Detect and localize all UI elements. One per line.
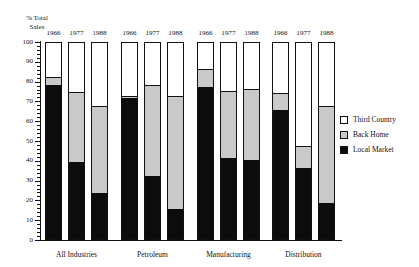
legend-swatch-icon <box>340 146 348 154</box>
y-tick-label: 0 <box>7 237 33 244</box>
bar-group: 196619771988Manufacturing <box>197 42 260 240</box>
x-axis-group-label: Manufacturing <box>197 250 260 259</box>
bar-segment-third-country <box>168 42 183 96</box>
bar-segment-back-home <box>273 93 288 111</box>
bar-segment-local-market <box>46 85 61 239</box>
bar-segment-local-market <box>198 87 213 239</box>
bar-segment-third-country <box>244 42 259 89</box>
y-tick-label: 10 <box>7 217 33 224</box>
bar-segment-local-market <box>69 162 84 239</box>
y-axis-title-line-1: % Total <box>14 14 60 23</box>
bar-segment-back-home <box>244 89 259 160</box>
bar-segment-third-country <box>145 42 160 85</box>
stacked-bar <box>243 42 260 240</box>
bar-segment-local-market <box>122 98 137 239</box>
x-axis-line <box>40 240 342 241</box>
bar-year-label: 1966 <box>118 29 142 37</box>
legend-swatch-icon <box>340 131 348 139</box>
stacked-bar-chart: % Total Sales 0102030405060708090100 196… <box>0 0 419 267</box>
bar-segment-back-home <box>296 146 311 168</box>
x-axis-group-label: Petroleum <box>121 250 184 259</box>
bar-segment-back-home <box>92 106 107 193</box>
legend-item: Third Country <box>340 112 416 127</box>
bar-segment-back-home <box>198 69 213 87</box>
y-tick-label: 90 <box>7 58 33 65</box>
bar-segment-back-home <box>145 85 160 176</box>
bar-segment-local-market <box>221 158 236 239</box>
bar-segment-third-country <box>319 42 334 106</box>
bar-group: 196619771988Petroleum <box>121 42 184 240</box>
bar-year-label: 1977 <box>65 29 89 37</box>
y-tick-label: 50 <box>7 138 33 145</box>
bar-segment-local-market <box>168 209 183 239</box>
bar-year-label: 1977 <box>217 29 241 37</box>
y-tick-major <box>35 240 41 241</box>
bar-segment-back-home <box>69 92 84 161</box>
legend-label: Local Market <box>353 145 394 154</box>
y-tick-label: 60 <box>7 118 33 125</box>
y-tick-label: 30 <box>7 177 33 184</box>
bar-year-label: 1977 <box>141 29 165 37</box>
bar-segment-local-market <box>296 168 311 239</box>
plot-area: 196619771988All Industries196619771988Pe… <box>41 42 341 240</box>
bar-group: 196619771988All Industries <box>45 42 108 240</box>
stacked-bar <box>272 42 289 240</box>
y-tick-label: 70 <box>7 98 33 105</box>
stacked-bar <box>144 42 161 240</box>
bar-group: 196619771988Distribution <box>272 42 335 240</box>
bar-year-label: 1966 <box>269 29 293 37</box>
bar-year-label: 1977 <box>292 29 316 37</box>
x-axis-group-label: All Industries <box>45 250 108 259</box>
stacked-bar <box>45 42 62 240</box>
bar-segment-third-country <box>198 42 213 69</box>
y-tick-label: 40 <box>7 157 33 164</box>
stacked-bar <box>197 42 214 240</box>
bar-year-label: 1988 <box>88 29 112 37</box>
bar-segment-back-home <box>319 106 334 203</box>
bar-segment-third-country <box>69 42 84 92</box>
legend-swatch-icon <box>340 116 348 124</box>
bar-segment-third-country <box>273 42 288 92</box>
bar-segment-local-market <box>145 176 160 239</box>
bar-segment-local-market <box>273 110 288 239</box>
stacked-bar <box>318 42 335 240</box>
bar-year-label: 1966 <box>42 29 66 37</box>
stacked-bar <box>68 42 85 240</box>
bar-segment-back-home <box>168 96 183 209</box>
bar-year-label: 1988 <box>164 29 188 37</box>
bar-segment-back-home <box>221 91 236 158</box>
stacked-bar <box>295 42 312 240</box>
x-axis-group-label: Distribution <box>272 250 335 259</box>
bar-segment-third-country <box>92 42 107 106</box>
bar-segment-back-home <box>46 77 61 85</box>
bar-segment-local-market <box>319 203 334 239</box>
bar-segment-third-country <box>122 42 137 96</box>
bar-year-label: 1988 <box>240 29 264 37</box>
y-tick-label: 20 <box>7 197 33 204</box>
bar-year-label: 1966 <box>194 29 218 37</box>
legend-label: Third Country <box>353 115 396 124</box>
bar-segment-third-country <box>46 42 61 77</box>
bar-segment-third-country <box>296 42 311 146</box>
y-tick-label: 100 <box>7 39 33 46</box>
stacked-bar <box>220 42 237 240</box>
stacked-bar <box>121 42 138 240</box>
bar-segment-local-market <box>244 160 259 239</box>
y-tick-label: 80 <box>7 78 33 85</box>
legend-label: Back Home <box>353 130 389 139</box>
bar-segment-local-market <box>92 193 107 239</box>
stacked-bar <box>91 42 108 240</box>
legend-item: Local Market <box>340 142 416 157</box>
chart-legend: Third CountryBack HomeLocal Market <box>340 112 416 157</box>
bar-year-label: 1988 <box>315 29 339 37</box>
bar-segment-third-country <box>221 42 236 91</box>
legend-item: Back Home <box>340 127 416 142</box>
stacked-bar <box>167 42 184 240</box>
